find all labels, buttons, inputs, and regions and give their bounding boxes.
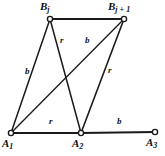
vertex-label-a2-subscript: 2: [79, 142, 83, 151]
vertex-a2: [78, 130, 83, 135]
vertex-label-a1: A1: [2, 138, 13, 151]
edge-label-a2-a3: b: [117, 117, 122, 126]
graph-edges-and-vertices: [0, 0, 165, 156]
vertex-label-a2: A2: [72, 138, 83, 151]
vertex-label-bj1-subscript: j + 1: [115, 5, 130, 14]
vertex-label-bj-subscript: j: [47, 5, 49, 14]
edge-label-a2-bj1: r: [108, 66, 112, 75]
vertex-a3: [152, 129, 157, 134]
vertex-label-bj: Bj: [40, 1, 50, 14]
edge-a1-to-bj1: [11, 19, 124, 133]
vertex-label-a3: A3: [146, 137, 157, 150]
edge-label-bj-a2: r: [60, 36, 64, 45]
vertex-label-a1-subscript: 1: [9, 142, 13, 151]
edge-group: [11, 19, 155, 133]
edge-label-a1-a2: r: [49, 117, 53, 126]
vertex-bj1: [121, 16, 126, 21]
vertex-bj: [47, 16, 52, 21]
vertex-label-bj1: Bj + 1: [108, 1, 130, 14]
edge-label-a1-bj: b: [25, 67, 30, 76]
edge-a1-to-bj: [11, 19, 50, 133]
vertex-label-a3-subscript: 3: [153, 141, 157, 150]
graph-diagram-figure: Bj Bj + 1 A1 A2 A3 b r b r r b: [0, 0, 165, 156]
edge-label-a1-bj1: b: [85, 36, 90, 45]
vertex-a1: [8, 130, 13, 135]
edge-a2-to-a3: [81, 132, 155, 133]
edge-bj-to-a2: [50, 19, 81, 133]
